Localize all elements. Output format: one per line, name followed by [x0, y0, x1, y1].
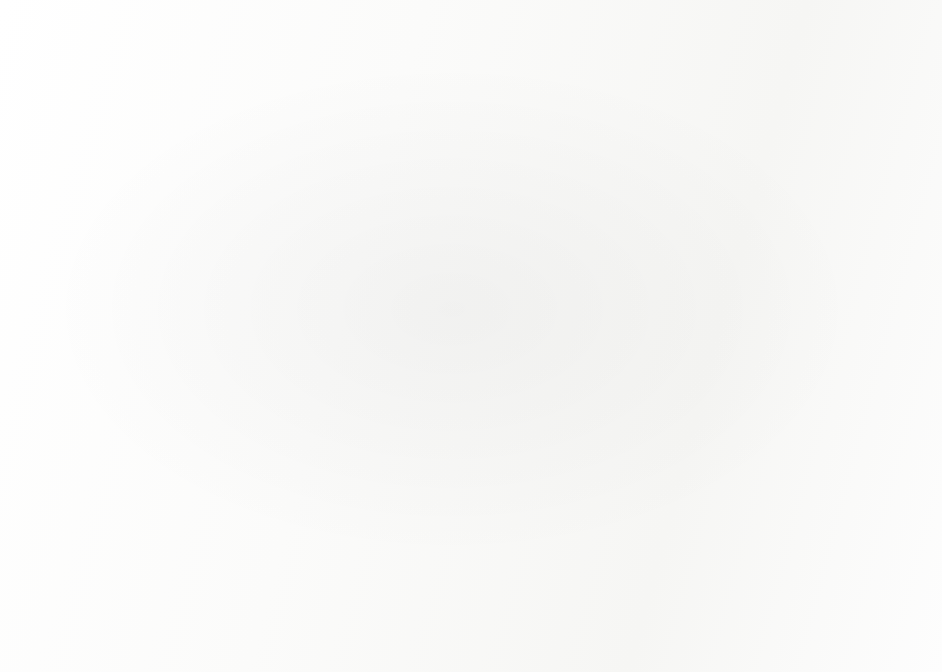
pie-chart-figure: Storage 4% Pavement placement 2% Labour …	[0, 0, 942, 672]
pie-label-mixing-percent: 45%	[207, 281, 281, 310]
pie-label-labour-percent: 6%	[706, 258, 782, 288]
pie-label-pavement-placement: Pavement placement 2%	[700, 146, 919, 205]
pie-label-pavement-placement-name: Pavement placement	[700, 146, 919, 175]
pie-label-mixing: Mixing 45%	[207, 252, 281, 310]
pie-label-storage-name: Storage	[626, 28, 707, 57]
pie-label-materials: Materials 43%	[355, 443, 449, 501]
pie-label-storage-percent: 4%	[626, 58, 707, 88]
pie-chart-graphic	[0, 0, 942, 672]
pie-label-materials-name: Materials	[355, 444, 449, 471]
pie-label-labour-name: Labour	[706, 228, 782, 257]
pie-label-labour: Labour 6%	[706, 228, 782, 287]
pie-label-pavement-placement-percent: 2%	[700, 176, 919, 206]
pie-label-storage: Storage 4%	[626, 28, 707, 87]
pie-label-mixing-name: Mixing	[207, 253, 281, 280]
leader-line-storage	[528, 45, 620, 48]
pie-label-materials-percent: 43%	[355, 472, 449, 501]
